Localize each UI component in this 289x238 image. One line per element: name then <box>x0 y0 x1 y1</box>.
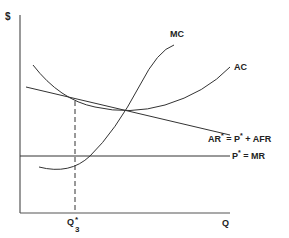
ac-curve <box>33 65 230 111</box>
x-axis-label: Q <box>222 218 229 228</box>
svg-text:P* = MR: P* = MR <box>232 149 266 161</box>
svg-text:3: 3 <box>75 225 80 234</box>
mr-label: P* = MR <box>232 149 266 161</box>
mc-curve <box>39 45 174 169</box>
svg-text:Q: Q <box>67 217 74 227</box>
y-axis-label: $ <box>5 11 11 22</box>
ar-label: AR* = P* + AFR <box>208 132 272 144</box>
mc-label: MC <box>170 29 184 39</box>
economics-diagram: $ Q MC AC AR* = P* + AFR P* = MR Q 3 * <box>0 0 289 238</box>
q3-label: Q 3 * <box>67 215 80 234</box>
ac-label: AC <box>234 62 247 72</box>
svg-text:AR* = P* + AFR: AR* = P* + AFR <box>208 132 272 144</box>
svg-text:*: * <box>75 215 79 224</box>
